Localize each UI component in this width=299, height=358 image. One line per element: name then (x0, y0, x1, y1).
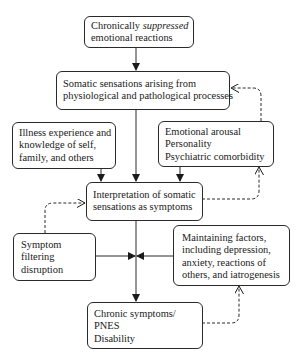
node-chronic-symptoms: Chronic symptoms/ PNES Disability (87, 302, 203, 349)
node-somatic-sensations: Somatic sensations arising from physiolo… (56, 71, 230, 110)
node-text: emotional reactions (91, 32, 187, 44)
node-text: others, and iatrogenesis (182, 269, 283, 281)
node-text: Chronically (91, 20, 143, 31)
node-text: PNES (94, 320, 196, 332)
node-text: filtering (21, 251, 89, 263)
node-text: sensations as symptoms (93, 201, 196, 213)
node-text: physiological and pathological processes (63, 90, 223, 102)
node-text: knowledge of self, (19, 139, 109, 151)
node-text: Illness experience and (19, 127, 109, 139)
node-maintaining-factors: Maintaining factors, including depressio… (173, 225, 290, 286)
node-emotional-arousal: Emotional arousal Personality Psychiatri… (158, 121, 274, 167)
node-text: Symptom (21, 239, 89, 251)
node-text: disruption (21, 264, 89, 276)
dashed-arrow-filtering-to-interpretation (45, 203, 85, 233)
dashed-arrow-emotional-to-somatic (231, 88, 261, 121)
node-text: Psychiatric comorbidity (165, 151, 267, 163)
node-illness-experience: Illness experience and knowledge of self… (12, 122, 116, 169)
node-text: Personality (165, 138, 267, 150)
node-text-emphasis: suppressed (143, 20, 189, 31)
node-text: Somatic sensations arising from (63, 78, 223, 90)
node-suppressed-emotions: Chronically suppressed emotional reactio… (84, 16, 194, 48)
node-text: Emotional arousal (165, 126, 267, 138)
node-text: family, and others (19, 152, 109, 164)
dashed-arrow-interpretation-to-emotional (202, 167, 259, 199)
node-text: Disability (94, 333, 196, 345)
node-interpretation: Interpretation of somatic sensations as … (86, 182, 203, 221)
node-text: Maintaining factors, (182, 232, 283, 244)
node-symptom-filtering: Symptom filtering disruption (13, 233, 96, 281)
node-text: anxiety, reactions of (182, 257, 283, 269)
node-text: including depression, (182, 244, 283, 256)
flow-diagram: Chronically suppressed emotional reactio… (0, 0, 299, 358)
dashed-arrow-chronic-to-maintaining (202, 286, 239, 323)
node-text: Interpretation of somatic (93, 189, 196, 201)
node-text: Chronic symptoms/ (94, 308, 196, 320)
